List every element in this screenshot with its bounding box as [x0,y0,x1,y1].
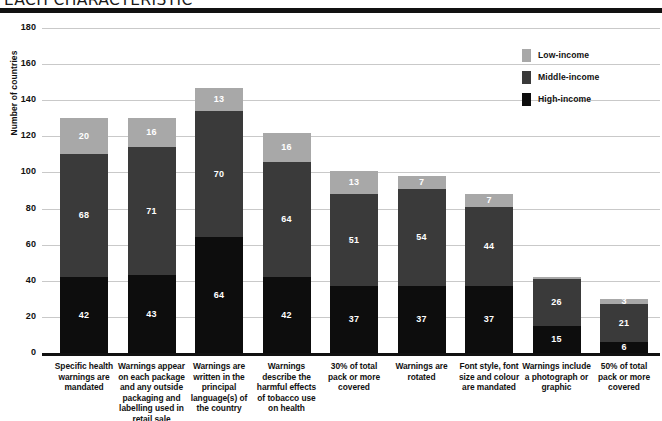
bar-value-label: 51 [349,236,359,245]
header-rule [0,8,662,13]
bar-value-label: 71 [146,207,156,216]
bar-value-label: 7 [486,196,491,205]
y-axis-tick-label: 40 [2,275,36,285]
x-axis-label: Warnings arewritten in theprincipallangu… [182,361,256,414]
x-axis-line [42,353,660,356]
bar-stack[interactable]: 206842 [60,118,108,353]
bar-segment: 15 [533,326,581,353]
bar-value-label: 44 [484,242,494,251]
bar-stack[interactable]: 3216 [600,299,648,353]
legend-swatch-icon [522,93,531,106]
x-axis-label: Warnings includea photograph orgraphic [520,361,594,393]
bar-value-label: 20 [79,132,89,141]
bar-value-label: 70 [214,170,224,179]
bar-stack[interactable]: 166442 [263,133,311,353]
bar-value-label: 37 [416,315,426,324]
bar-stack[interactable]: 137064 [195,88,243,353]
bar-segment: 42 [263,277,311,353]
bar-segment: 13 [330,171,378,194]
bar-segment: 64 [263,162,311,278]
bar-value-label: 64 [281,215,291,224]
bar-segment: 71 [128,147,176,275]
bar-value-label: 64 [214,291,224,300]
bar-stack[interactable]: 167143 [128,118,176,353]
legend-swatch-icon [522,71,531,84]
bar-segment: 37 [398,286,446,353]
bar-segment: 43 [128,275,176,353]
bar-segment: 44 [465,207,513,286]
bar-value-label: 37 [484,315,494,324]
bar-value-label: 16 [281,143,291,152]
chart-page: EACH CHARACTERISTIC Number of countries … [0,0,662,421]
bar-segment: 16 [263,133,311,162]
bar-value-label: 6 [621,343,626,352]
bar-segment: 16 [128,118,176,147]
bar-value-label: 13 [349,178,359,187]
bar-segment: 37 [330,286,378,353]
y-axis-tick-label: 80 [2,203,36,213]
bar-segment: 21 [600,304,648,342]
bar-value-label: 43 [146,310,156,319]
x-axis-label: Warnings arerotated [385,361,459,382]
legend-label: Low-income [538,50,589,60]
legend-item[interactable]: High-income [522,88,599,110]
bar-value-label: 54 [416,233,426,242]
bar-segment: 26 [533,279,581,326]
bar-value-label: 42 [79,311,89,320]
bar-segment: 70 [195,111,243,237]
gridline [42,28,660,29]
bar-stack[interactable]: 2615 [533,277,581,353]
bar-value-label: 7 [419,178,424,187]
y-axis-tick-label: 60 [2,239,36,249]
bar-segment: 6 [600,342,648,353]
legend-label: High-income [538,94,591,104]
bar-segment: 20 [60,118,108,154]
bar-segment: 7 [398,176,446,189]
bar-segment: 7 [465,194,513,207]
bar-segment: 51 [330,194,378,286]
bar-value-label: 16 [146,128,156,137]
bar-value-label: 68 [79,211,89,220]
bar-value-label: 37 [349,315,359,324]
y-axis-tick-label: 0 [2,347,36,357]
bar-segment: 42 [60,277,108,353]
x-axis-label: 50% of totalpack or morecovered [587,361,661,393]
legend-swatch-icon [522,49,531,62]
bar-segment: 64 [195,237,243,353]
x-axis-label: Warningsdescribe theharmful effectsof to… [250,361,324,414]
legend-item[interactable]: Low-income [522,44,599,66]
bar-segment: 68 [60,154,108,277]
legend-item[interactable]: Middle-income [522,66,599,88]
bar-value-label: 21 [619,319,629,328]
y-axis-tick-label: 140 [2,94,36,104]
bar-segment: 37 [465,286,513,353]
bar-segment: 54 [398,189,446,287]
bar-stack[interactable]: 74437 [465,194,513,353]
legend-label: Middle-income [538,72,599,82]
x-axis-label: Font style, fontsize and colourare manda… [452,361,526,393]
y-axis-tick-label: 20 [2,311,36,321]
x-axis-label: 30% of totalpack or morecovered [317,361,391,393]
bar-value-label: 15 [551,335,561,344]
bar-value-label: 13 [214,95,224,104]
bar-segment: 13 [195,88,243,111]
bar-value-label: 26 [551,298,561,307]
y-axis-tick-label: 160 [2,58,36,68]
x-axis-label: Specific healthwarnings aremandated [47,361,121,393]
x-axis-label: Warnings appearon each packageand any ou… [115,361,189,421]
bar-stack[interactable]: 135137 [330,171,378,353]
y-axis-tick-label: 120 [2,130,36,140]
bar-value-label: 42 [281,311,291,320]
y-axis-tick-label: 100 [2,166,36,176]
chart-legend: Low-incomeMiddle-incomeHigh-income [522,44,599,110]
bar-stack[interactable]: 75437 [398,176,446,353]
y-axis-tick-label: 180 [2,22,36,32]
